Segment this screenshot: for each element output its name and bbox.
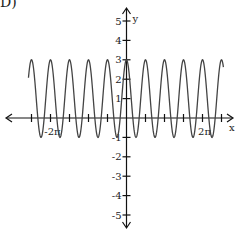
y-tick-label: -4 xyxy=(112,190,122,201)
x-axis-label: x xyxy=(229,122,235,133)
y-tick-label: 2 xyxy=(115,74,121,85)
y-tick-label: -3 xyxy=(112,171,122,182)
y-tick-label: 5 xyxy=(115,16,121,27)
y-tick-label: 1 xyxy=(115,93,121,104)
y-tick-label: -2 xyxy=(112,151,122,162)
y-tick-label: 4 xyxy=(115,35,121,46)
y-tick-label: -5 xyxy=(112,210,122,221)
sine-graph: -5-4-3-2-112345-2π2πxy xyxy=(0,0,238,231)
y-axis-label: y xyxy=(132,13,139,24)
y-tick-label: 3 xyxy=(115,54,121,65)
